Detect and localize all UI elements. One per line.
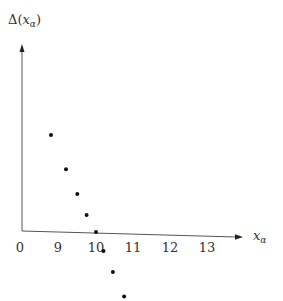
- x-tick-label: 0: [16, 240, 24, 255]
- x-tick-label: 10: [88, 240, 105, 255]
- x-axis-label: xα: [253, 228, 266, 245]
- x-tick-label: 13: [199, 240, 216, 255]
- x-tick-label: 12: [162, 240, 179, 255]
- data-point: [102, 249, 106, 253]
- data-point: [64, 167, 68, 171]
- y-axis-arrow-icon: [20, 44, 25, 52]
- data-point: [75, 192, 79, 196]
- data-point: [122, 295, 126, 299]
- y-axis-label: Δ(xα): [8, 12, 41, 29]
- x-axis: [22, 231, 236, 237]
- scatter-chart: Δ(xα) xα 0910111213: [0, 0, 283, 301]
- x-tick-label: 11: [125, 240, 142, 255]
- x-tick-label: 9: [54, 240, 62, 255]
- data-point: [111, 270, 115, 274]
- x-axis-arrow-icon: [235, 234, 243, 239]
- data-point: [94, 230, 98, 234]
- data-point: [49, 133, 53, 137]
- data-point: [85, 213, 89, 217]
